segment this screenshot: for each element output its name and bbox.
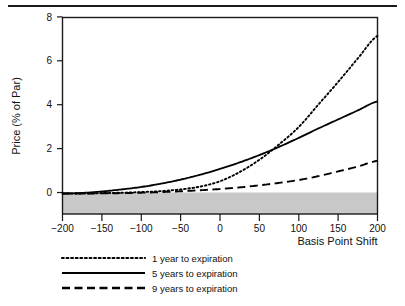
y-tick-label-8: 8 — [46, 12, 52, 23]
data-series-group — [63, 36, 378, 194]
y-axis-ticks — [57, 17, 63, 193]
x-tick-label--200: −200 — [51, 223, 74, 234]
series-line-5-years — [63, 101, 378, 193]
x-tick-label--100: −100 — [130, 223, 153, 234]
negative-price-shaded-band — [63, 193, 378, 215]
x-axis-title: Basis Point Shift — [297, 235, 377, 247]
y-tick-label-0: 0 — [46, 187, 52, 198]
y-tick-label-2: 2 — [46, 143, 52, 154]
legend-label-9-years: 9 years to expiration — [152, 283, 238, 294]
plot-frame — [63, 18, 378, 215]
x-tick-label-150: 150 — [330, 223, 347, 234]
x-tick-label--150: −150 — [91, 223, 114, 234]
x-tick-label-50: 50 — [254, 223, 266, 234]
series-line-1-year — [63, 36, 378, 194]
chart-figure: 0 2 4 6 8 −200 −150 −100 −50 0 50 100 15… — [0, 0, 405, 306]
series-line-9-years — [63, 161, 378, 194]
y-tick-label-4: 4 — [46, 99, 52, 110]
chart-legend: 1 year to expiration 5 years to expirati… — [62, 253, 238, 294]
legend-label-1-year: 1 year to expiration — [152, 253, 233, 264]
legend-label-5-years: 5 years to expiration — [152, 268, 238, 279]
y-tick-label-6: 6 — [46, 55, 52, 66]
x-tick-label-0: 0 — [217, 223, 223, 234]
x-tick-label-200: 200 — [369, 223, 386, 234]
y-axis-title: Price (% of Par) — [10, 77, 22, 155]
x-tick-label--50: −50 — [172, 223, 189, 234]
price-vs-basis-point-shift-chart: 0 2 4 6 8 −200 −150 −100 −50 0 50 100 15… — [0, 0, 405, 306]
x-tick-label-100: 100 — [290, 223, 307, 234]
x-axis-ticks — [63, 214, 378, 221]
